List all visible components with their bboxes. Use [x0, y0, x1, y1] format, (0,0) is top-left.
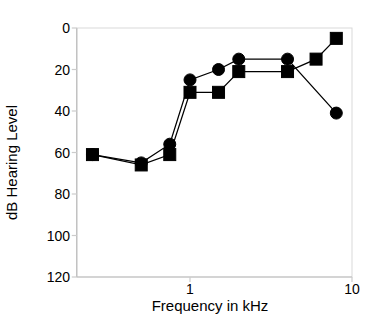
audiogram-chart: dB Hearing Level 0 20 40 60 80 100 120 1…	[0, 0, 377, 325]
data-point-circle	[282, 53, 294, 65]
data-point-square	[282, 66, 294, 78]
data-point-square	[135, 159, 147, 171]
data-point-square	[184, 86, 196, 98]
data-point-square	[164, 149, 176, 161]
data-series-group	[86, 32, 342, 171]
data-point-circle	[213, 64, 225, 76]
series-line-circle	[92, 59, 336, 163]
data-point-square	[233, 66, 245, 78]
data-point-square	[330, 32, 342, 44]
data-point-square	[213, 86, 225, 98]
series-line-square	[92, 38, 336, 165]
data-point-circle	[330, 107, 342, 119]
data-point-circle	[233, 53, 245, 65]
data-point-square	[86, 149, 98, 161]
data-point-square	[310, 53, 322, 65]
axis-ticks	[72, 28, 352, 282]
plot-area	[0, 0, 377, 325]
data-point-circle	[184, 74, 196, 86]
